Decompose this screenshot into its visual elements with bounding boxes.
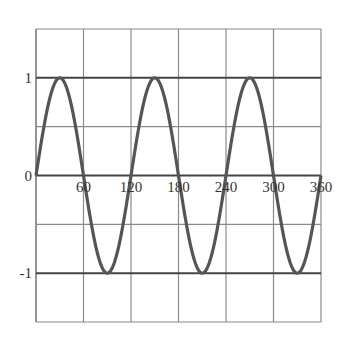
x-tick-label: 240 <box>215 179 238 195</box>
x-tick-label: 60 <box>76 179 91 195</box>
x-tick-label: 180 <box>167 179 190 195</box>
y-tick-label: 0 <box>25 168 33 184</box>
y-tick-label: 1 <box>25 70 33 86</box>
x-tick-label: 120 <box>120 179 143 195</box>
y-tick-label: -1 <box>20 265 33 281</box>
sine-chart: 6012018024030036010-1 <box>0 0 345 345</box>
x-tick-label: 300 <box>262 179 285 195</box>
x-tick-label: 360 <box>310 179 333 195</box>
